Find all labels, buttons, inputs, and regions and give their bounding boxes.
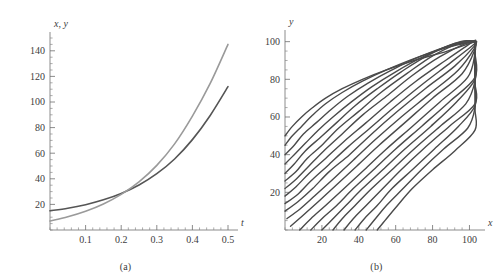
panel-b-xtick-label: 100 (462, 234, 477, 245)
panel-a-ytick-label: 100 (30, 96, 45, 107)
panel-b-tick-labels: 2040608010020406080100xy (265, 16, 493, 245)
panel-a-xtick-label: 0.2 (115, 234, 128, 245)
panel-a-yaxis-label: x, y (53, 18, 68, 29)
panel-b-curve (287, 42, 476, 219)
panel-b-ytick-label: 60 (270, 111, 280, 122)
panel-b-yaxis-label: y (288, 16, 294, 27)
panel-b: 2040608010020406080100xy (b) (251, 0, 502, 276)
panel-a-xtick-label: 0.4 (186, 234, 199, 245)
panel-a-curve (50, 44, 228, 221)
panel-a-xtick-label: 0.3 (151, 234, 164, 245)
panel-b-xtick-label: 60 (391, 234, 401, 245)
panel-b-ytick-label: 20 (270, 187, 280, 198)
panel-b-caption: (b) (251, 261, 502, 272)
panel-a-xaxis-label: t (241, 217, 244, 228)
panel-b-curve (366, 45, 475, 230)
panel-a-curves (50, 44, 228, 221)
panel-a-ytick-label: 60 (35, 148, 45, 159)
panel-a-xtick-label: 0.1 (79, 234, 92, 245)
panel-b-plot: 2040608010020406080100xy (251, 0, 502, 260)
panel-b-ytick-label: 40 (270, 149, 280, 160)
panel-a: 0.10.20.30.40.520406080100120140tx, y (a… (0, 0, 251, 276)
panel-b-xtick-label: 20 (317, 234, 327, 245)
panel-b-ytick-label: 100 (265, 36, 280, 47)
panel-a-caption: (a) (0, 261, 251, 272)
panel-a-ytick-label: 40 (35, 173, 45, 184)
panel-a-ytick-label: 120 (30, 71, 45, 82)
panel-a-plot: 0.10.20.30.40.520406080100120140tx, y (0, 0, 251, 260)
panel-a-axes (50, 32, 238, 230)
panel-b-curve (311, 42, 477, 230)
figure-container: 0.10.20.30.40.520406080100120140tx, y (a… (0, 0, 502, 276)
panel-a-tick-labels: 0.10.20.30.40.520406080100120140tx, y (30, 18, 244, 245)
panel-a-ytick-label: 20 (35, 199, 45, 210)
panel-b-curve (285, 42, 477, 212)
panel-a-xtick-label: 0.5 (222, 234, 235, 245)
panel-b-xaxis-label: x (487, 217, 493, 228)
panel-b-xtick-label: 40 (354, 234, 364, 245)
panel-b-curves (285, 40, 477, 230)
panel-a-ytick-label: 80 (35, 122, 45, 133)
panel-b-ytick-label: 80 (270, 74, 280, 85)
panel-a-ytick-label: 140 (30, 45, 45, 56)
panel-a-curve (50, 87, 228, 211)
panel-b-xtick-label: 80 (428, 234, 438, 245)
